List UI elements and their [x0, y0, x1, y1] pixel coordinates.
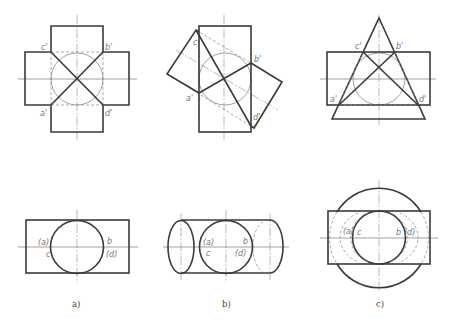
projection-diagram: c' b' a' d' c' b' a' d': [0, 0, 456, 324]
caption-a: a): [72, 299, 80, 309]
panel-b-side-view: (a) c b (d) b): [163, 210, 289, 309]
label-d: (d): [235, 249, 246, 258]
panel-c-front-view: c' b' a' d': [320, 15, 436, 125]
label-c: c: [46, 250, 51, 259]
label-b: b: [243, 237, 248, 246]
hidden-outer-arc-left: [340, 213, 358, 262]
label-b-prime: b': [254, 55, 261, 64]
label-c: c: [357, 228, 362, 237]
label-b-prime: b': [105, 43, 112, 52]
label-b: b: [396, 228, 401, 237]
label-a: (a): [343, 227, 354, 236]
caption-b: b): [222, 299, 231, 309]
label-a: (a): [203, 238, 214, 247]
panel-a-side-view: (a) c b (d) a): [18, 210, 138, 309]
intersection-line: [199, 63, 251, 93]
label-c: c: [206, 249, 211, 258]
label-a-prime: a': [330, 95, 337, 104]
hidden-outer-arc-right: [400, 213, 418, 262]
label-a-prime: a': [186, 94, 193, 103]
label-d-prime: d': [253, 113, 260, 122]
label-b-prime: b': [396, 42, 403, 51]
label-d-prime: d': [105, 109, 112, 118]
label-a-prime: a': [40, 109, 47, 118]
label-d-prime: d': [419, 95, 426, 104]
label-c-prime: c': [193, 38, 200, 47]
label-b: b: [107, 237, 112, 246]
label-a: (a): [38, 238, 49, 247]
sphere-outline: [199, 53, 251, 105]
panel-b-front-view: c' b' a' d': [167, 15, 282, 140]
vertical-cylinder-outline: [199, 26, 251, 132]
label-d: (d): [106, 250, 117, 259]
label-d: (d): [404, 228, 415, 237]
intersection-line: [339, 52, 395, 105]
intersection-line: [363, 52, 418, 105]
label-c-prime: c': [355, 42, 362, 51]
caption-c: c): [376, 299, 384, 309]
right-end-arc: [270, 220, 283, 273]
panel-a-front-view: c' b' a' d': [18, 15, 137, 140]
label-c-prime: c': [41, 43, 48, 52]
panel-c-side-view: (a) c b (d) c): [320, 180, 438, 309]
